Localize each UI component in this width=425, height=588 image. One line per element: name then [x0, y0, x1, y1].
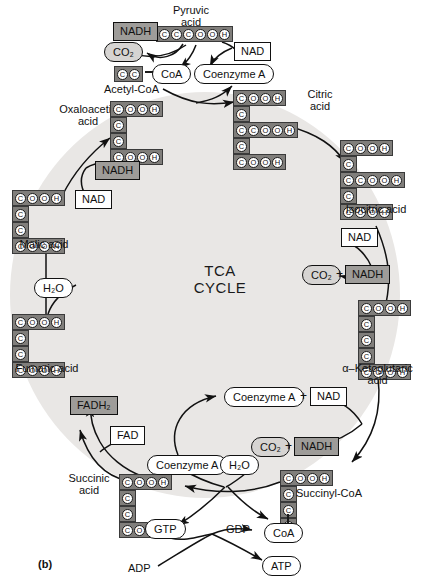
hydrogen-atom: H	[51, 193, 62, 204]
citric-acid-structure: C O O H C C C O O H C C O O H	[233, 90, 298, 170]
carbon-atom: C	[122, 525, 133, 536]
nadh-ketoglutarate-box[interactable]: NADH	[294, 437, 339, 456]
pyruvic-acid-structure: C C C O O H	[156, 26, 233, 42]
water-fumarate-pill[interactable]: H₂O	[34, 278, 73, 298]
chain-row: C C O O H	[233, 122, 298, 138]
coenzyme-a-ketoglutarate-pill[interactable]: Coenzyme A	[224, 387, 304, 407]
carbon-atom: C	[15, 333, 26, 344]
carbon-atom: C	[361, 335, 372, 346]
coenzyme-a-succinyl-pill[interactable]: Coenzyme A	[147, 455, 227, 475]
carbon-atom: C	[15, 349, 26, 360]
chain-row: C	[12, 222, 29, 238]
atp-pill[interactable]: ATP	[262, 556, 301, 576]
carbon-atom: C	[159, 29, 170, 40]
chain-row: C	[280, 486, 297, 502]
oxygen-atom: O	[39, 317, 50, 328]
oxygen-atom: O	[295, 473, 306, 484]
oxygen-atom: O	[207, 29, 218, 40]
co2-pyruvate-pill[interactable]: CO₂	[104, 42, 143, 62]
chain-row: C O O H	[119, 474, 172, 490]
hydrogen-atom: H	[149, 104, 160, 115]
carbon-atom: C	[15, 225, 26, 236]
carbon-atom: C	[113, 120, 124, 131]
carbon-atom: C	[117, 69, 128, 80]
fumaric-acid-label: Fumaric acid	[2, 362, 92, 374]
coa-succinyl-pill[interactable]: CoA	[264, 523, 303, 543]
oxygen-atom: O	[27, 193, 38, 204]
oxygen-atom: O	[260, 93, 271, 104]
plus-sign-coenzyme-nad: +	[300, 390, 307, 402]
chain-row: C	[110, 133, 127, 149]
carbon-atom: C	[236, 141, 247, 152]
co2-ketoglutarate-pill[interactable]: CO₂	[251, 437, 290, 457]
panel-label: (b)	[38, 558, 52, 570]
carbon-atom: C	[15, 209, 26, 220]
hydrogen-atom: H	[51, 317, 62, 328]
tca-cycle-figure: Pyruvic acid C C C O O H NADH CO₂ NAD C …	[0, 0, 425, 588]
nadh-malate-box[interactable]: NADH	[95, 161, 140, 180]
carbon-atom: C	[283, 489, 294, 500]
oxygen-atom: O	[272, 125, 283, 136]
coenzyme-a-top-pill[interactable]: Coenzyme A	[194, 64, 274, 84]
oxygen-atom: O	[27, 317, 38, 328]
carbon-atom: C	[15, 193, 26, 204]
chain-row: C	[119, 490, 136, 506]
oxygen-atom: O	[125, 104, 136, 115]
nad-oxaloacetate-box[interactable]: NAD	[75, 190, 112, 209]
chain-row: C	[12, 206, 29, 222]
nad-ketoglutarate-box[interactable]: NAD	[310, 387, 347, 406]
succinic-acid-label: Succinic acid	[58, 472, 120, 496]
hydrogen-atom: H	[272, 93, 283, 104]
fadh2-box[interactable]: FADH₂	[70, 396, 118, 415]
carbon-atom: C	[129, 69, 140, 80]
nad-top-box[interactable]: NAD	[234, 42, 271, 61]
hydrogen-atom: H	[397, 303, 408, 314]
oxygen-atom: O	[248, 93, 259, 104]
oxygen-atom: O	[307, 473, 318, 484]
nadh-isocitrate-box[interactable]: NADH	[345, 265, 390, 284]
fad-box[interactable]: FAD	[110, 426, 145, 445]
chain-row: C	[233, 106, 250, 122]
chain-row: C O O H	[233, 154, 286, 170]
carbon-atom: C	[113, 104, 124, 115]
acetyl-coa-structure: C C	[114, 66, 143, 82]
chain-row: C	[233, 138, 250, 154]
hydrogen-atom: H	[284, 125, 295, 136]
carbon-atom: C	[361, 319, 372, 330]
carbon-atom: C	[248, 125, 259, 136]
chain-row: C	[12, 346, 29, 362]
oxygen-atom: O	[373, 303, 384, 314]
oxygen-atom: O	[367, 143, 378, 154]
alpha-ketoglutaric-acid-label: α–Ketoglutaric acid	[330, 362, 425, 386]
water-succinyl-pill[interactable]: H₂O	[220, 455, 259, 475]
hydrogen-atom: H	[219, 29, 230, 40]
carbon-atom: C	[361, 351, 372, 362]
plus-sign-isocitrate: +	[336, 268, 343, 280]
chain-row: C O O H	[280, 470, 333, 486]
coa-acetyl-pill[interactable]: CoA	[152, 64, 191, 84]
carbon-atom: C	[236, 109, 247, 120]
isocitric-acid-label: Isocitric acid	[330, 203, 422, 215]
chain-row: C	[340, 156, 357, 172]
hydrogen-atom: H	[158, 477, 169, 488]
carbon-atom: C	[343, 159, 354, 170]
chain-row: C C C O O H	[156, 26, 233, 42]
chain-row: C	[110, 117, 127, 133]
chain-row: C	[119, 506, 136, 522]
chain-row: C	[358, 332, 375, 348]
oxygen-atom: O	[260, 125, 271, 136]
oxaloacetic-acid-structure: C O O H C C C O O H	[110, 101, 163, 165]
nadh-pyruvate-box[interactable]: NADH	[113, 22, 158, 41]
carbon-atom: C	[343, 191, 354, 202]
carbon-atom: C	[343, 143, 354, 154]
oxygen-atom: O	[137, 104, 148, 115]
carbon-atom: C	[355, 175, 366, 186]
plus-sign-ketoglutarate: +	[285, 440, 292, 452]
oxygen-atom: O	[260, 157, 271, 168]
adp-label: ADP	[128, 562, 164, 574]
nad-isocitrate-box[interactable]: NAD	[341, 228, 378, 247]
gtp-pill[interactable]: GTP	[145, 519, 186, 539]
co2-isocitrate-pill[interactable]: CO₂	[302, 265, 341, 285]
carbon-atom: C	[171, 29, 182, 40]
chain-row: C	[340, 188, 357, 204]
